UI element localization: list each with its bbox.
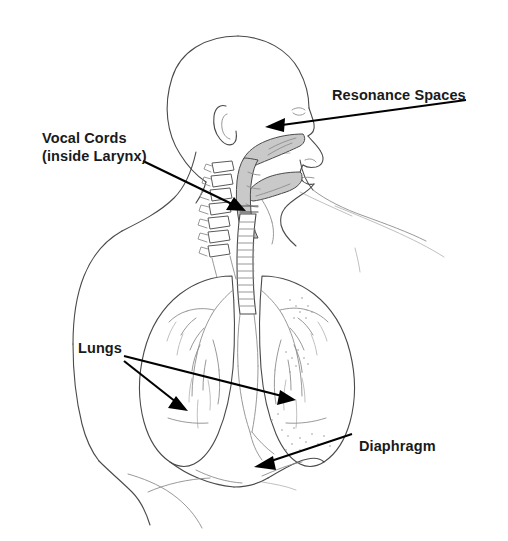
label-vocal-cords: Vocal Cords (inside Larynx) (42, 129, 147, 165)
cervical-vertebrae (198, 161, 236, 281)
label-diaphragm: Diaphragm (359, 437, 436, 455)
resonance-arrow (265, 100, 466, 132)
label-vocal-cords-line2: (inside Larynx) (42, 147, 147, 165)
anatomy-illustration (0, 0, 508, 541)
label-lungs: Lungs (78, 339, 122, 357)
trachea (237, 214, 256, 314)
anatomy-diagram: Resonance Spaces Vocal Cords (inside Lar… (0, 0, 508, 541)
label-vocal-cords-line1: Vocal Cords (42, 129, 147, 147)
label-resonance-spaces: Resonance Spaces (332, 86, 466, 104)
torso-outline (73, 152, 444, 528)
